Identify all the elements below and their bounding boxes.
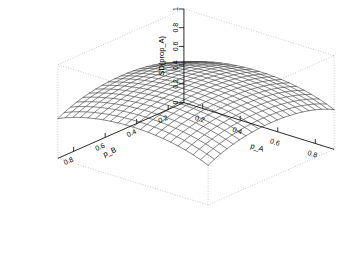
- z-tick-label: 0.6: [172, 41, 179, 51]
- z-tick-label: 0.4: [172, 60, 179, 70]
- z-tick-label: 0: [172, 101, 179, 105]
- persp-plot-root: 00.20.40.60.81SD(prop_A)0.80.60.40.2p_B0…: [0, 0, 364, 256]
- plot-background: [0, 0, 364, 256]
- z-tick-label: 0.8: [172, 23, 179, 33]
- z-tick-label: 0.2: [172, 79, 179, 89]
- z-tick-label: 1: [172, 7, 179, 11]
- surface-plot-canvas: 00.20.40.60.81SD(prop_A)0.80.60.40.2p_B0…: [0, 0, 364, 256]
- z-axis-title: SD(prop_A): [157, 35, 166, 75]
